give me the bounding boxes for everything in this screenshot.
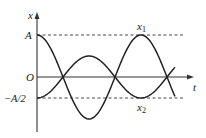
origin-label: O bbox=[26, 71, 34, 83]
t-axis-label: t bbox=[193, 81, 197, 93]
oscillation-diagram: x t A O −A/2 x1 x2 bbox=[0, 0, 206, 138]
t-arrow-icon bbox=[187, 75, 194, 80]
curve-x1-label: x1 bbox=[136, 20, 146, 34]
y-arrow-icon bbox=[35, 12, 40, 19]
y-axis-label: x bbox=[27, 9, 33, 21]
curve-x2-label: x2 bbox=[136, 101, 146, 115]
level-minus-half-A-label: −A/2 bbox=[4, 93, 26, 104]
level-A-label: A bbox=[24, 29, 32, 41]
